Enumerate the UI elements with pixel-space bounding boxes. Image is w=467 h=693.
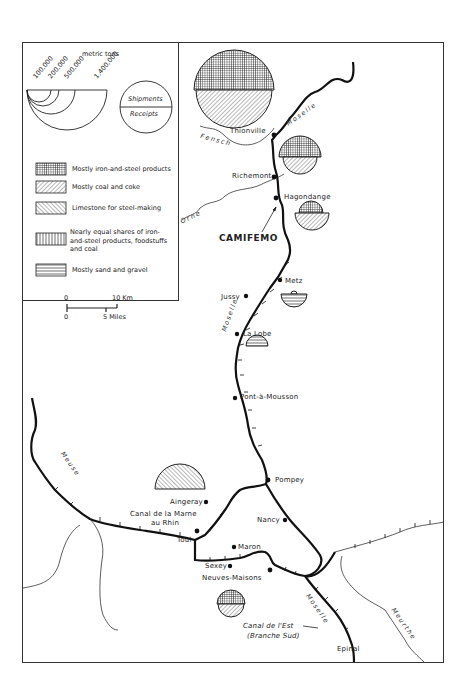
place-label-nancy: Nancy [257, 516, 280, 524]
scale-km-zero: 0 [64, 294, 68, 303]
place-label-la-lobe: La Lobe [243, 330, 272, 338]
place-label-canal-marne-1: Canal de la Marne [130, 510, 197, 518]
canal-pointers [303, 626, 318, 628]
legend-key-receipts: Receipts [130, 110, 158, 119]
place-label-thionville: Thionville [230, 127, 266, 135]
scale-mi-max: 5 Miles [103, 313, 126, 322]
place-label-canal-est-1: Canal de l'Est [243, 622, 294, 630]
town-dots [195, 133, 288, 573]
place-label-neuves-maisons: Neuves-Maisons [202, 574, 262, 582]
place-label-aingeray: Aingeray [170, 498, 203, 506]
scale-mi-zero: 0 [64, 313, 68, 322]
port-symbol-richemont [279, 136, 321, 174]
place-label-toul: Toul [177, 536, 192, 544]
place-label-hagondange: Hagondange [284, 193, 331, 201]
port-symbol-hagondange [295, 201, 329, 230]
place-label-camifemo: CAMIFEMO [219, 233, 278, 243]
place-label-richemont: Richemont [232, 172, 271, 180]
place-label-epinal: Epinal [337, 645, 360, 653]
port-symbol-aingeray [155, 464, 205, 489]
scale-km-max: 10 Km [112, 294, 133, 303]
place-label-canal-est-2: (Branche Sud) [247, 632, 300, 640]
place-label-canal-marne-2: au Rhin [151, 519, 179, 527]
legend-label-mixed: Nearly equal shares of iron-and-steel pr… [70, 228, 170, 254]
legend-label-iron-steel: Mostly iron-and-steel products [72, 165, 171, 174]
legend-label-limestone: Limestone for steel-making [72, 204, 161, 213]
legend-label-sand: Mostly sand and gravel [72, 266, 148, 275]
place-label-maron: Maron [238, 543, 261, 551]
legend-label-coal: Mostly coal and coke [72, 183, 140, 192]
port-symbol-neuves-maisons [217, 590, 245, 617]
place-label-pompey: Pompey [275, 476, 304, 484]
legend-key-shipments: Shipments [128, 95, 163, 104]
place-label-sexey: Sexey [205, 562, 227, 570]
port-symbol-thionville [194, 50, 274, 128]
camifemo-arrow [262, 207, 276, 232]
place-label-jussy: Jussy [221, 293, 240, 301]
moselle-waterway-map [0, 0, 467, 693]
port-symbol-metz [281, 291, 307, 307]
place-label-metz: Metz [285, 277, 303, 285]
place-label-pont-a-mousson: Pont-à-Mousson [240, 393, 298, 401]
scale-bar [67, 304, 117, 312]
